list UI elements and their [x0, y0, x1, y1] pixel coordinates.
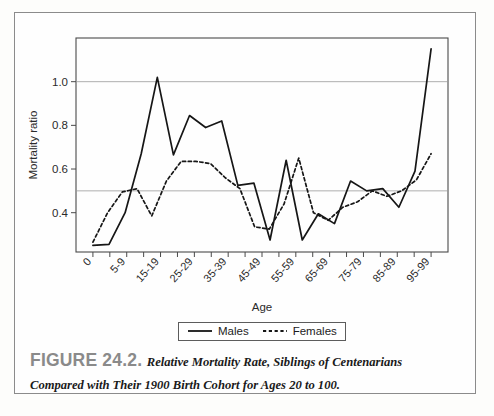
figure-caption-line-1: Relative Mortality Rate, Siblings of Cen… [147, 355, 402, 369]
x-tick-label: 95-99 [404, 255, 432, 284]
legend-label-males: Males [218, 325, 249, 337]
figure-caption-line-2: Compared with Their 1900 Birth Cohort fo… [30, 378, 340, 392]
figure-page: 0.40.60.81.0 05-915-1925-2935-3945-4955-… [0, 0, 494, 416]
x-tick-label: 75-79 [336, 255, 364, 284]
y-tick-label: 0.6 [52, 163, 68, 175]
x-tick-label: 55-59 [269, 255, 297, 284]
series-line-females [93, 154, 431, 242]
x-tick-label: 0 [80, 255, 93, 268]
x-tick-label: 85-89 [370, 255, 398, 284]
legend-swatch-males-icon [187, 326, 213, 336]
legend-label-females: Females [293, 325, 337, 337]
gridlines [76, 82, 448, 191]
x-tick-label: 65-69 [302, 255, 330, 284]
legend-swatch-females-icon [262, 326, 288, 336]
x-tick-label: 45-49 [235, 255, 263, 284]
x-axis-ticks [93, 252, 431, 257]
chart-legend: Males Females [178, 322, 346, 341]
x-tick-label: 15-19 [133, 255, 161, 284]
series-line-males [93, 49, 431, 246]
y-axis-title: Mortality ratio [27, 110, 39, 179]
legend-entry-females[interactable]: Females [262, 325, 337, 337]
y-tick-label: 0.4 [52, 207, 69, 219]
x-tick-label: 5-9 [108, 255, 128, 275]
figure-caption: FIGURE 24.2. Relative Mortality Rate, Si… [30, 349, 450, 394]
x-tick-label: 35-39 [201, 255, 229, 284]
x-axis-labels: 05-915-1925-2935-3945-4955-5965-6975-798… [80, 255, 431, 284]
x-tick-label: 25-29 [167, 255, 195, 284]
plot-frame [76, 38, 448, 252]
y-tick-label: 1.0 [52, 76, 68, 88]
x-axis-title: Age [252, 301, 272, 313]
y-tick-label: 0.8 [52, 119, 68, 131]
y-axis: 0.40.60.81.0 [52, 76, 76, 219]
figure-number: FIGURE 24.2. [30, 350, 142, 370]
legend-entry-males[interactable]: Males [187, 325, 249, 337]
